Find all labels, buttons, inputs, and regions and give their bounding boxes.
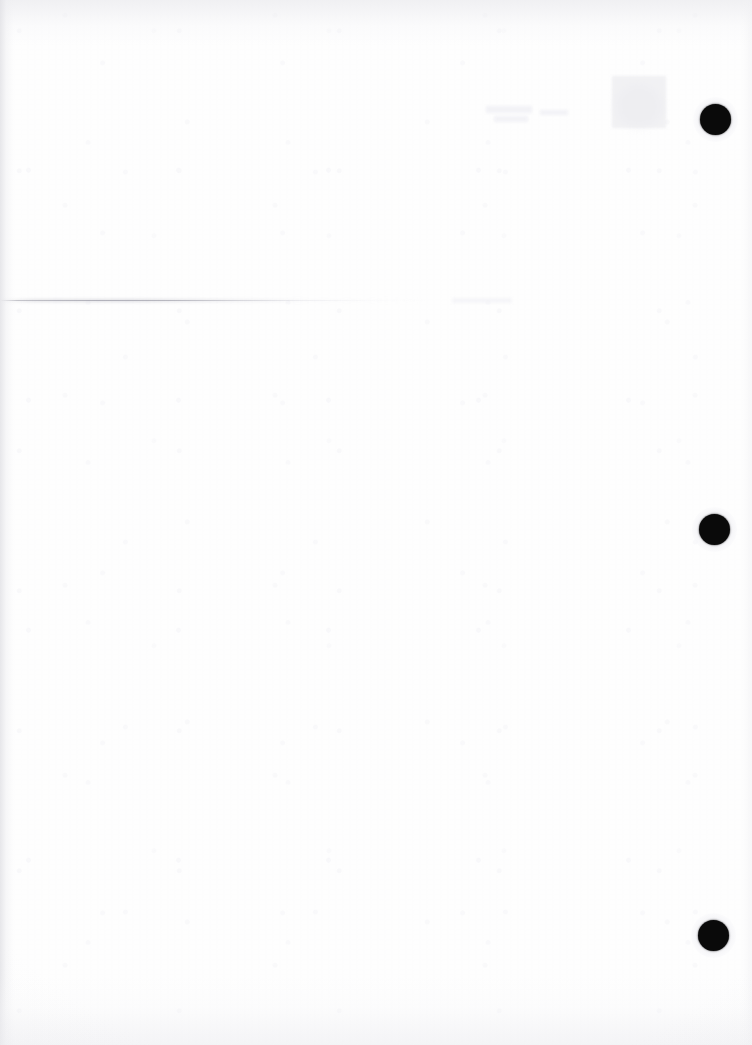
faint-horizontal-rule — [0, 300, 430, 301]
punch-hole-top — [700, 104, 731, 135]
punch-hole-bottom — [698, 920, 729, 951]
punch-hole-middle — [699, 514, 730, 545]
paper-background — [0, 0, 752, 1045]
scanned-page — [0, 0, 752, 1045]
